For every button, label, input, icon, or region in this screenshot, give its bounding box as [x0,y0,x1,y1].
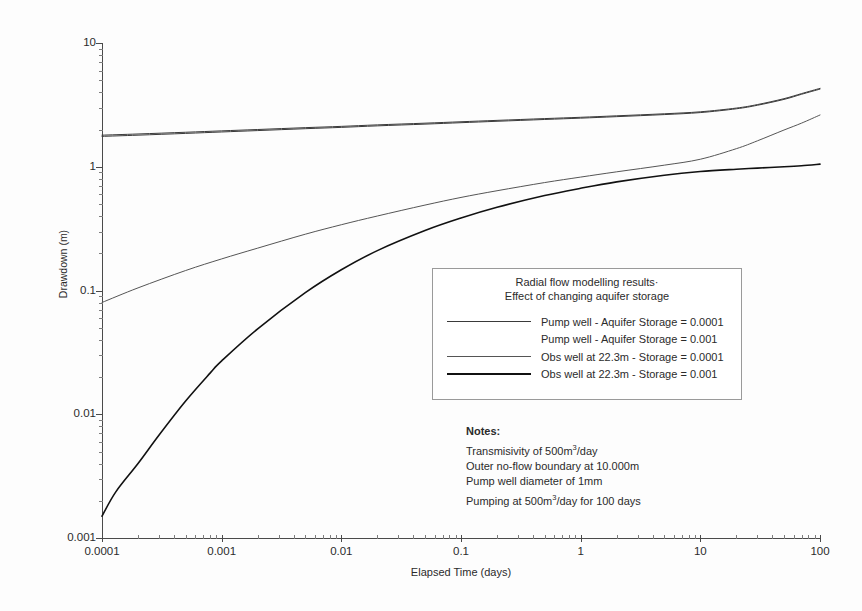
legend-swatch-line [443,334,535,344]
legend-swatch-line [443,369,535,379]
notes-lines: Transmisivity of 500m3/dayOuter no-flow … [466,440,641,509]
legend-entries: Pump well - Aquifer Storage = 0.0001Pump… [433,313,741,383]
note-line: Transmisivity of 500m3/day [466,440,641,459]
legend-item[interactable]: Pump well - Aquifer Storage = 0.001 [443,331,741,349]
legend-item-label: Pump well - Aquifer Storage = 0.001 [535,333,717,345]
legend-item[interactable]: Obs well at 22.3m - Storage = 0.0001 [443,348,741,366]
legend-item[interactable]: Pump well - Aquifer Storage = 0.0001 [443,313,741,331]
legend-item-label: Obs well at 22.3m - Storage = 0.001 [535,368,717,380]
note-line: Outer no-flow boundary at 10.000m [466,459,641,475]
notes-heading: Notes: [466,424,641,440]
legend-title-line-1: Radial flow modelling results· [433,275,741,289]
chart-legend: Radial flow modelling results· Effect of… [432,268,742,400]
chart-figure: 0.0010.010.1110 0.00010.0010.010.1110100… [0,0,862,611]
legend-item-label: Pump well - Aquifer Storage = 0.0001 [535,316,724,328]
note-line: Pump well diameter of 1mm [466,474,641,490]
legend-item[interactable]: Obs well at 22.3m - Storage = 0.001 [443,366,741,384]
series-line-2 [102,89,820,136]
legend-title: Radial flow modelling results· Effect of… [433,269,741,303]
legend-title-line-2: Effect of changing aquifer storage [433,289,741,303]
notes-block: Notes: Transmisivity of 500m3/dayOuter n… [466,424,641,509]
legend-swatch-line [443,352,535,362]
legend-swatch-line [443,317,535,327]
note-line: Pumping at 500m3/day for 100 days [466,490,641,509]
legend-item-label: Obs well at 22.3m - Storage = 0.0001 [535,351,724,363]
